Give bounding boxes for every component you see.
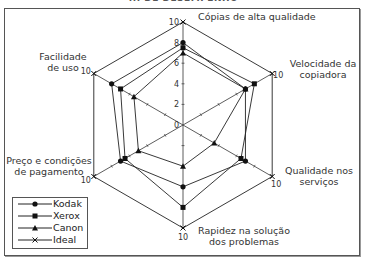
triangle-marker-icon [18, 223, 52, 233]
tick-label: 0 [174, 121, 179, 130]
legend-item-kodak: Kodak [13, 198, 87, 210]
x-marker-icon [18, 235, 52, 245]
series-canon [134, 53, 246, 166]
tick-label: 10 [178, 233, 188, 242]
circle-marker-icon [18, 199, 52, 209]
legend-item-canon: Canon [13, 222, 87, 234]
square-marker-icon [18, 211, 52, 221]
axis-label-copias: Cópias de alta qualidade [198, 11, 316, 22]
axis-label-velocidade: Velocidade dacopiadora [288, 58, 358, 80]
legend-item-ideal: Ideal [13, 234, 87, 246]
legend-item-xerox: Xerox [13, 210, 87, 222]
tick-label: 2 [174, 100, 179, 109]
axis-label-preco: Preço e condiçõesde pagamento [6, 155, 92, 177]
tick-label: 10 [271, 180, 281, 189]
legend: Kodak Xerox Canon Ideal [12, 197, 88, 249]
tick-label: 10 [273, 71, 283, 80]
axis-label-facilidade: Facilidadede uso [38, 51, 88, 73]
axis-label-rapidez: Rapidez na soluçãodos problemas [194, 225, 294, 247]
axis-line [94, 74, 183, 126]
tick-label: 4 [174, 80, 179, 89]
axis-label-qualidade: Qualidade nosserviços [284, 165, 354, 187]
axis-line [183, 74, 272, 126]
